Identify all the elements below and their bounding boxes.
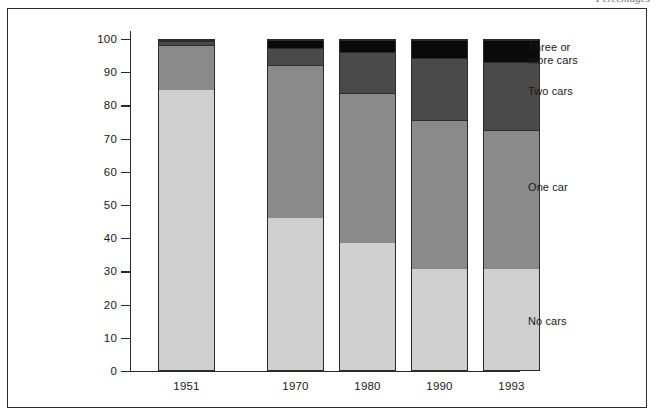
bar-segment[interactable] <box>340 93 395 242</box>
x-axis-label: 1970 <box>282 380 308 392</box>
legend-entry-label: Three or more cars <box>528 41 578 67</box>
stacked-bar[interactable] <box>267 39 324 371</box>
legend-entry-label: One car <box>528 181 568 194</box>
y-axis-tick-label: 70 <box>104 133 117 145</box>
y-axis-tick-mark <box>121 305 130 306</box>
y-axis-tick-mark <box>121 238 130 239</box>
y-axis-tick-mark <box>121 371 130 372</box>
bar-segment[interactable] <box>412 58 467 119</box>
y-axis-tick-label: 30 <box>104 265 117 277</box>
bar-segment[interactable] <box>159 45 214 90</box>
stacked-bar[interactable] <box>411 39 468 371</box>
y-axis-tick-mark <box>121 271 130 272</box>
bar-segment[interactable] <box>340 40 395 52</box>
bar-segment[interactable] <box>159 90 214 371</box>
y-axis-tick-label: 50 <box>104 199 117 211</box>
bar-segment[interactable] <box>268 48 323 65</box>
bar-segment[interactable] <box>268 40 323 48</box>
plot-area: 0102030405060708090100 19511970198019901… <box>130 31 520 383</box>
chart-legend: Three or more carsTwo carsOne carNo cars <box>528 23 638 383</box>
bar-segment[interactable] <box>412 40 467 58</box>
y-axis-tick-mark <box>121 72 130 73</box>
y-axis-tick-mark <box>121 39 130 40</box>
stacked-bar[interactable] <box>158 39 215 371</box>
x-axis-label: 1993 <box>498 380 524 392</box>
bar-segment[interactable] <box>412 269 467 371</box>
y-axis-tick-label: 100 <box>97 33 117 45</box>
figure-frame: 0102030405060708090100 19511970198019901… <box>7 8 647 408</box>
x-axis-line <box>130 371 520 372</box>
y-axis-tick-label: 60 <box>104 166 117 178</box>
legend-entry-label: No cars <box>528 315 567 328</box>
y-axis-tick-mark <box>121 172 130 173</box>
x-axis-label: 1951 <box>173 380 199 392</box>
bar-segment[interactable] <box>159 40 214 41</box>
bar-segment[interactable] <box>412 120 467 269</box>
y-axis-tick-mark <box>121 105 130 106</box>
caption-fragment-text: Percentages <box>596 0 650 4</box>
y-axis-tick-label: 80 <box>104 99 117 111</box>
y-axis-tick-label: 20 <box>104 299 117 311</box>
y-axis-tick-label: 10 <box>104 332 117 344</box>
y-axis-tick-label: 0 <box>110 365 117 377</box>
bar-segment[interactable] <box>268 218 323 371</box>
y-axis-tick-mark <box>121 338 130 339</box>
y-axis-line <box>130 31 131 371</box>
y-axis-tick-label: 90 <box>104 66 117 78</box>
bar-segment[interactable] <box>340 52 395 94</box>
bar-segment[interactable] <box>268 65 323 218</box>
x-axis-label: 1980 <box>354 380 380 392</box>
y-axis-tick-mark <box>121 139 130 140</box>
bar-segment[interactable] <box>159 41 214 45</box>
y-axis-tick-label: 40 <box>104 232 117 244</box>
legend-entry-label: Two cars <box>528 85 573 98</box>
top-caption-strip: Percentages <box>0 0 656 7</box>
y-axis-tick-mark <box>121 205 130 206</box>
x-axis-label: 1990 <box>426 380 452 392</box>
bar-segment[interactable] <box>340 243 395 371</box>
stacked-bar[interactable] <box>339 39 396 371</box>
